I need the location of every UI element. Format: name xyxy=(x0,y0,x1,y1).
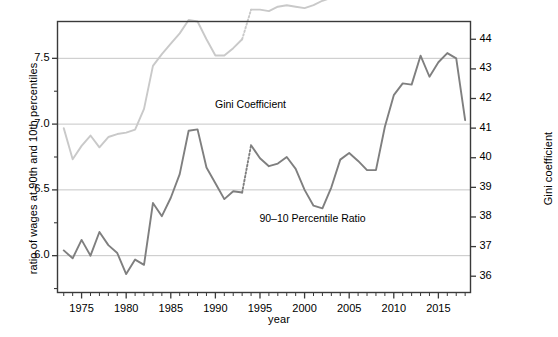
axis-tick-label: 2015 xyxy=(413,302,463,314)
chart-container: ratio of wages at 90th and 10th percenti… xyxy=(0,0,558,337)
chart-canvas xyxy=(0,0,558,337)
axis-tick-label: 40 xyxy=(480,150,504,162)
axis-tick-label: 39 xyxy=(480,180,504,192)
axis-tick-label: 44 xyxy=(480,32,504,44)
axis-tick-label: 1995 xyxy=(235,302,285,314)
axis-tick-label: 1980 xyxy=(101,302,151,314)
axis-tick-label: 43 xyxy=(480,61,504,73)
axis-tick-label: 1990 xyxy=(190,302,240,314)
series-lines xyxy=(64,0,465,274)
gridlines xyxy=(58,58,471,255)
axis-tick-label: 6.0 xyxy=(16,248,50,260)
axis-tick-label: 7.0 xyxy=(16,117,50,129)
axis-tick-label: 37 xyxy=(480,239,504,251)
x-axis-title: year xyxy=(0,313,558,325)
axis-tick-label: 7.5 xyxy=(16,51,50,63)
axis-tick-label: 1985 xyxy=(146,302,196,314)
axis-tick-label: 2005 xyxy=(324,302,374,314)
axis-tick-label: 1975 xyxy=(57,302,107,314)
axis-tick-label: 36 xyxy=(480,269,504,281)
series-annotation-ratio: 90–10 Percentile Ratio xyxy=(259,212,365,224)
axis-tick-label: 2000 xyxy=(280,302,330,314)
axis-tick-label: 38 xyxy=(480,209,504,221)
axis-tick-label: 6.5 xyxy=(16,182,50,194)
axis-tick-label: 41 xyxy=(480,121,504,133)
axis-ticks xyxy=(52,39,476,298)
y-axis-right-title: Gini coefficient xyxy=(538,0,558,337)
axis-tick-label: 2010 xyxy=(369,302,419,314)
axis-tick-label: 42 xyxy=(480,91,504,103)
plot-frame xyxy=(58,22,471,293)
series-annotation-gini: Gini Coefficient xyxy=(215,98,286,110)
